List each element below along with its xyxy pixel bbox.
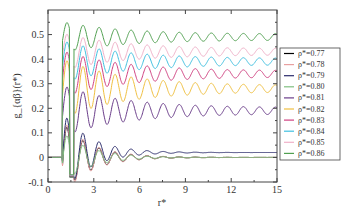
series-line <box>48 61 277 176</box>
x-axis-label: r* <box>158 197 166 208</box>
legend-entry-label: ρ*=0.82 <box>298 105 325 114</box>
series-line <box>48 127 277 179</box>
series-line <box>48 136 277 177</box>
legend-entry-label: ρ*=0.83 <box>298 116 325 125</box>
x-tick-label: 0 <box>46 184 51 195</box>
legend-entry-label: ρ*=0.79 <box>298 71 325 80</box>
legend-entry-label: ρ*=0.80 <box>298 82 325 91</box>
y-tick-label: 0.4 <box>32 54 45 65</box>
x-tick-label: 9 <box>183 184 188 195</box>
x-tick-label: 3 <box>91 184 96 195</box>
rdf-line-chart: 03691215-0.100.10.20.30.40.5 r* g_{αβ}(r… <box>0 0 342 211</box>
y-tick-label: 0 <box>39 152 44 163</box>
x-tick-label: 6 <box>137 184 142 195</box>
series-line <box>48 42 277 175</box>
legend: ρ*=0.77ρ*=0.78ρ*=0.79ρ*=0.80ρ*=0.81ρ*=0.… <box>280 48 340 160</box>
y-tick-label: 0.1 <box>32 127 45 138</box>
legend-entry-label: ρ*=0.86 <box>298 149 325 158</box>
y-tick-label: 0.2 <box>32 103 45 114</box>
series-line <box>48 118 277 178</box>
legend-entry-label: ρ*=0.77 <box>298 49 325 58</box>
legend-entry-label: ρ*=0.85 <box>298 138 325 147</box>
series-line <box>48 87 277 176</box>
y-tick-label: -0.1 <box>28 177 44 188</box>
x-tick-label: 15 <box>272 184 282 195</box>
legend-entry-label: ρ*=0.78 <box>298 60 325 69</box>
axis-ticks: 03691215-0.100.10.20.30.40.5 <box>28 10 282 195</box>
y-tick-label: 0.3 <box>32 78 45 89</box>
x-tick-label: 12 <box>226 184 236 195</box>
legend-entry-label: ρ*=0.84 <box>298 127 325 136</box>
y-tick-label: 0.5 <box>32 29 45 40</box>
plot-lines <box>48 23 277 182</box>
legend-entry-label: ρ*=0.81 <box>298 93 325 102</box>
y-axis-label: g_{αβ}(r*) <box>11 74 23 119</box>
